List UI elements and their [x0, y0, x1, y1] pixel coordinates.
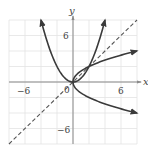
- origin-label: 0: [64, 85, 70, 95]
- y-axis-label: y: [68, 5, 75, 16]
- x-tick-pos6: 6: [118, 86, 124, 96]
- y-tick-pos6: 6: [63, 31, 69, 41]
- y-tick-neg6: −6: [57, 125, 71, 135]
- x-tick-neg6: −6: [17, 86, 31, 96]
- function-inverse-graph: x y 0 −6 6 6 −6: [0, 0, 148, 151]
- x-axis-label: x: [143, 76, 148, 87]
